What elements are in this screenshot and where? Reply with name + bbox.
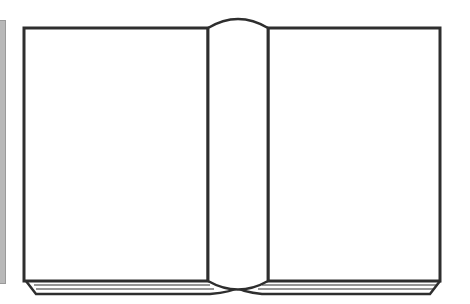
left-page [24, 28, 208, 281]
book-spine [208, 19, 268, 290]
right-page [268, 28, 440, 281]
left-page-stack [26, 281, 240, 294]
open-book-illustration [0, 0, 470, 304]
